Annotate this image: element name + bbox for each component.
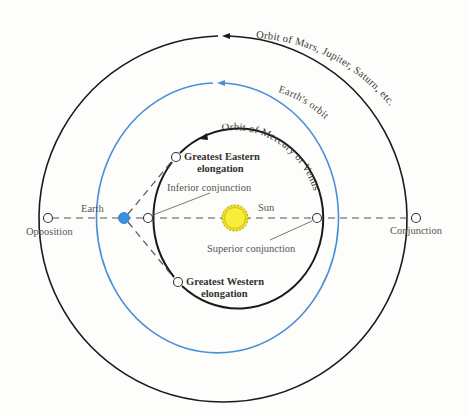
earth-icon [119,213,130,224]
outer-orbit-arrow-icon [222,33,230,39]
earth-orbit [97,80,339,353]
earth-orbit-label: Earth's orbit [277,83,331,121]
inferior-conjunction-leader [153,193,210,215]
inner-orbit-arrow-icon [199,133,208,140]
opposition-label: Opposition [26,226,73,237]
inferior-conjunction-marker [144,214,153,223]
sun-icon [222,205,248,231]
earth-label: Earth [81,203,104,214]
superior-conjunction-label: Superior conjunction [207,243,296,254]
greatest-western-label-line2: elongation [201,288,248,299]
superior-conjunction-marker [313,214,322,223]
greatest-eastern-label-line2: elongation [197,163,244,174]
superior-conjunction-leader [270,221,312,240]
conjunction-marker [412,214,421,223]
inferior-conjunction-label: Inferior conjunction [167,182,252,193]
eastern-sight-line [128,161,172,214]
greatest-eastern-marker [172,153,181,162]
earth-orbit-arrow-icon [217,80,225,86]
western-sight-line [128,222,174,278]
diagram-canvas: Orbit of Mars, Jupiter, Saturn, etc. Ear… [0,0,468,417]
sun-label: Sun [258,202,275,213]
opposition-marker [44,214,53,223]
greatest-western-marker [174,278,183,287]
greatest-western-label-line1: Greatest Western [186,276,264,287]
greatest-eastern-label-line1: Greatest Eastern [184,151,260,162]
conjunction-label: Conjunction [390,225,443,236]
